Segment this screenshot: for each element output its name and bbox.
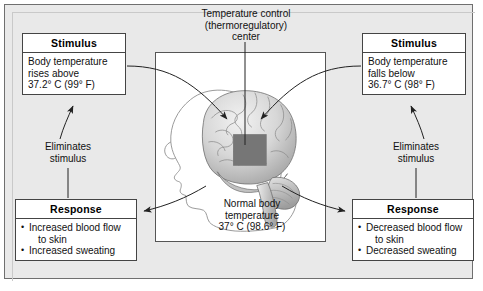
response-left-item-1-text: Increased blood flow [29, 222, 121, 233]
stimulus-left-line3: 37.2° C (99° F) [28, 79, 121, 91]
center-label-line2: (thermoregulatory) [176, 20, 316, 32]
response-right-item-1-text: Decreased blood flow [366, 222, 462, 233]
response-left-item-1-cont: to skin [29, 234, 132, 246]
response-right-body: Decreased blood flow to skin Decreased s… [353, 219, 473, 260]
normal-temp-line3: 37° C (98.6° F) [196, 221, 308, 233]
center-label-line3: center [176, 31, 316, 43]
response-left-body: Increased blood flow to skin Increased s… [16, 219, 136, 260]
response-left-title: Response [16, 200, 136, 219]
response-right-item-1: Decreased blood flow to skin [358, 222, 469, 245]
stimulus-right-line1: Body temperature [368, 56, 461, 68]
eliminates-left-line2: stimulus [22, 153, 114, 165]
center-label-line1: Temperature control [176, 8, 316, 20]
normal-temperature-label: Normal body temperature 37° C (98.6° F) [196, 198, 308, 233]
normal-temp-line2: temperature [196, 210, 308, 222]
eliminates-right-line2: stimulus [370, 153, 462, 165]
stimulus-left-title: Stimulus [23, 34, 125, 53]
stimulus-left-body: Body temperature rises above 37.2° C (99… [23, 53, 125, 94]
response-right-item-1-cont: to skin [366, 234, 469, 246]
response-left-item-1: Increased blood flow to skin [21, 222, 132, 245]
stimulus-left-line1: Body temperature [28, 56, 121, 68]
stimulus-left-line2: rises above [28, 68, 121, 80]
response-right-box: Response Decreased blood flow to skin De… [352, 199, 474, 261]
stimulus-right-box: Stimulus Body temperature falls below 36… [362, 33, 466, 95]
stimulus-right-line2: falls below [368, 68, 461, 80]
eliminates-right-line1: Eliminates [370, 141, 462, 153]
arrow-stimulus-right-to-center [261, 66, 361, 119]
arrow-feedback-right-to-stimulus [411, 106, 424, 139]
arrow-stimulus-left-to-center [127, 66, 227, 119]
response-right-title: Response [353, 200, 473, 219]
diagram-page: Temperature control (thermoregulatory) c… [0, 0, 483, 291]
eliminates-stimulus-left-label: Eliminates stimulus [22, 141, 114, 164]
response-right-item-2: Decreased sweating [358, 245, 469, 257]
stimulus-right-title: Stimulus [363, 34, 465, 53]
arrow-feedback-left-to-stimulus [60, 106, 73, 139]
response-left-item-2: Increased sweating [21, 245, 132, 257]
normal-temp-line1: Normal body [196, 198, 308, 210]
eliminates-left-line1: Eliminates [22, 141, 114, 153]
response-left-box: Response Increased blood flow to skin In… [15, 199, 137, 261]
stimulus-right-line3: 36.7° C (98° F) [368, 79, 461, 91]
eliminates-stimulus-right-label: Eliminates stimulus [370, 141, 462, 164]
stimulus-left-box: Stimulus Body temperature rises above 37… [22, 33, 126, 95]
stimulus-right-body: Body temperature falls below 36.7° C (98… [363, 53, 465, 94]
center-label: Temperature control (thermoregulatory) c… [176, 8, 316, 43]
